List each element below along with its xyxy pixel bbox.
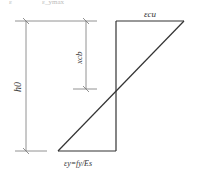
top-cut-text-left: ε bbox=[9, 0, 12, 6]
strain-diagram: ε ε_ymax εcu h0 xcb εy=fy/Es bbox=[0, 0, 197, 177]
top-cut-text-right: ε_ymax bbox=[42, 0, 64, 6]
dimension-lines bbox=[15, 18, 97, 154]
strain-diagonal bbox=[58, 21, 184, 151]
label-epsilon-y: εy=fy/Es bbox=[64, 159, 92, 168]
label-epsilon-cu: εcu bbox=[144, 9, 157, 19]
label-h0: h0 bbox=[12, 82, 23, 92]
label-xcb: xcb bbox=[74, 51, 84, 65]
strain-profile bbox=[58, 21, 184, 151]
